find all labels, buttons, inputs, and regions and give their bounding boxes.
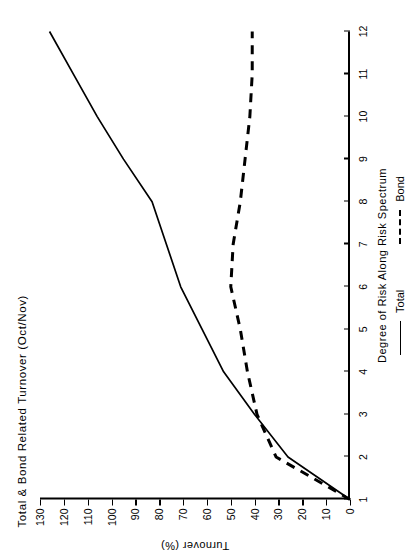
y-tick-mark	[159, 499, 160, 505]
legend-item-total: Total	[394, 289, 406, 354]
y-tick-mark	[278, 499, 279, 505]
x-tick-label: 1	[357, 496, 369, 502]
y-tick-label: 40	[249, 508, 261, 520]
plot-area: 0102030405060708090100110120130 12345678…	[40, 31, 350, 499]
y-tick-label: 80	[153, 508, 165, 520]
y-tick-label: 30	[272, 508, 284, 520]
y-tick-mark	[326, 499, 327, 505]
legend-label: Total	[394, 289, 406, 312]
y-tick-label: 10	[320, 508, 332, 520]
series-lines	[40, 31, 350, 499]
legend-swatch-solid	[400, 320, 401, 354]
y-tick-label: 0	[344, 508, 356, 514]
legend-item-bond: Bond	[394, 176, 406, 244]
y-tick-label: 110	[82, 508, 94, 525]
y-tick-label: 60	[201, 508, 213, 520]
x-tick-label: 2	[357, 454, 369, 460]
y-tick-label: 70	[177, 508, 189, 520]
chart-figure: Total & Bond Related Turnover (Oct/Nov) …	[0, 0, 416, 557]
y-tick-mark	[231, 499, 232, 505]
y-tick-mark	[207, 499, 208, 505]
y-tick-mark	[88, 499, 89, 505]
y-tick-mark	[40, 499, 41, 505]
y-tick-label: 90	[129, 508, 141, 520]
x-tick-label: 10	[357, 110, 369, 122]
x-axis-title: Degree of Risk Along Risk Spectrum	[376, 168, 388, 363]
chart-legend: TotalBond	[394, 176, 406, 355]
y-tick-mark	[255, 499, 256, 505]
y-tick-mark	[183, 499, 184, 505]
x-tick-label: 11	[357, 68, 369, 79]
y-tick-label: 50	[225, 508, 237, 520]
y-tick-label: 100	[106, 508, 118, 526]
x-tick-label: 8	[357, 198, 369, 204]
y-tick-mark	[350, 499, 351, 505]
x-tick-label: 3	[357, 411, 369, 417]
x-tick-label: 9	[357, 156, 369, 162]
y-tick-label: 20	[296, 508, 308, 520]
y-tick-label: 130	[34, 508, 46, 526]
series-line-total	[50, 31, 350, 499]
y-tick-mark	[302, 499, 303, 505]
y-tick-mark	[135, 499, 136, 505]
x-tick-label: 5	[357, 326, 369, 332]
series-line-bond	[231, 31, 350, 499]
x-tick-label: 6	[357, 283, 369, 289]
y-tick-label: 120	[58, 508, 70, 526]
y-tick-mark	[112, 499, 113, 505]
y-axis-title: Turnover (%)	[161, 539, 230, 551]
x-tick-label: 4	[357, 368, 369, 374]
rotated-chart-container: Total & Bond Related Turnover (Oct/Nov) …	[0, 0, 416, 557]
legend-label: Bond	[394, 176, 406, 202]
legend-swatch-dashed	[399, 209, 401, 243]
y-tick-mark	[64, 499, 65, 505]
x-tick-label: 7	[357, 241, 369, 247]
chart-title: Total & Bond Related Turnover (Oct/Nov)	[16, 295, 28, 527]
x-tick-label: 12	[357, 25, 369, 37]
